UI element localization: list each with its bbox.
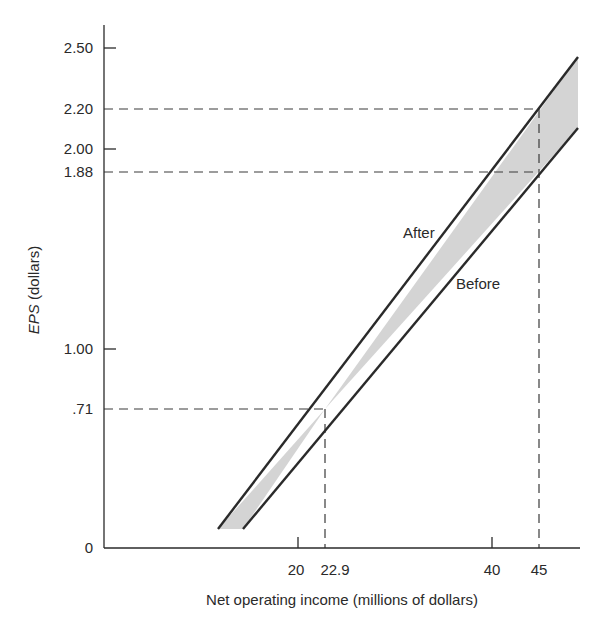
reference-lines [104,109,539,548]
axes [104,25,580,548]
y-tick-label: .71 [72,400,93,417]
x-tick-label: 40 [484,561,501,578]
x-tick-labels: 20 22.9 40 45 [288,561,548,578]
series-before-line [243,128,578,529]
x-tick-label: 20 [288,561,305,578]
shaded-region-lower [218,409,325,529]
y-ticks [104,48,116,349]
y-tick-label: 1.00 [64,340,93,357]
series-label-before: Before [456,275,500,292]
y-tick-label: 0 [85,539,93,556]
y-tick-label: 2.00 [64,140,93,157]
y-tick-labels: 2.50 2.20 2.00 1.88 1.00 .71 0 [64,39,93,556]
y-axis-title: EPS (dollars) [25,246,42,334]
x-tick-label: 45 [531,561,548,578]
series-after-line [218,57,578,529]
eps-ebit-chart: 2.50 2.20 2.00 1.88 1.00 .71 0 20 22.9 4… [0,0,601,633]
x-tick-label: 22.9 [320,561,349,578]
y-axis-title-unit: (dollars) [25,246,42,304]
series-label-after: After [403,224,435,241]
y-tick-label: 2.50 [64,39,93,56]
y-tick-label: 2.20 [64,100,93,117]
x-ticks [298,537,492,548]
y-axis-title-eps: EPS [25,304,42,334]
x-axis-title: Net operating income (millions of dollar… [206,591,478,608]
shaded-region-upper [325,57,578,409]
y-tick-label: 1.88 [64,163,93,180]
